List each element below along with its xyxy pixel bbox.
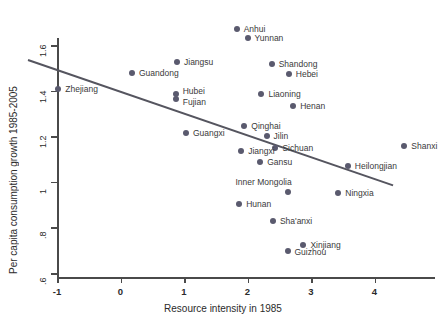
x-tick-mark — [248, 277, 250, 283]
data-point[interactable] — [55, 86, 61, 92]
y-tick-mark — [51, 182, 57, 184]
x-tick-label: 2 — [228, 286, 268, 297]
data-point-label: Ningxia — [345, 189, 373, 198]
y-tick-label: 1.2 — [38, 124, 48, 148]
x-tick-mark — [375, 277, 377, 283]
data-point-label: Inner Mongolia — [236, 178, 292, 187]
data-point-label: Heilongjian — [355, 162, 397, 171]
y-axis-title: Per capita consumption growth 1985-2005 — [8, 44, 19, 274]
data-point-label: Jiangxi — [248, 147, 274, 156]
y-tick-mark — [51, 136, 57, 138]
y-tick-label: .6 — [38, 261, 48, 285]
x-tick-mark — [121, 277, 123, 283]
data-point[interactable] — [234, 26, 240, 32]
x-tick-label: 4 — [355, 286, 395, 297]
data-point[interactable] — [257, 159, 263, 165]
data-point-label: Anhui — [244, 25, 266, 34]
x-axis-line — [57, 277, 435, 279]
x-tick-mark — [57, 277, 59, 283]
x-tick-label: 1 — [164, 286, 204, 297]
data-point[interactable] — [285, 248, 291, 254]
data-point[interactable] — [183, 130, 189, 136]
data-point[interactable] — [258, 91, 264, 97]
data-point[interactable] — [401, 143, 407, 149]
data-point-label: Hubei — [183, 87, 205, 96]
y-tick-label: 1 — [38, 170, 48, 194]
data-point-label: Qinghai — [251, 122, 280, 131]
data-point-label: Gansu — [267, 158, 292, 167]
data-point[interactable] — [241, 123, 247, 129]
data-point[interactable] — [238, 148, 244, 154]
y-tick-mark — [51, 227, 57, 229]
data-point[interactable] — [264, 133, 270, 139]
data-point[interactable] — [269, 61, 275, 67]
data-point-label: Sichuan — [282, 144, 313, 153]
x-tick-label: 0 — [101, 286, 141, 297]
data-point-label: Henan — [300, 102, 325, 111]
data-point-label: Shandong — [279, 60, 318, 69]
data-point[interactable] — [174, 59, 180, 65]
data-point-label: Fujian — [183, 98, 206, 107]
y-axis-line — [57, 38, 59, 278]
x-tick-mark — [184, 277, 186, 283]
scatter-chart: Per capita consumption growth 1985-2005 … — [0, 0, 446, 325]
y-tick-label: 1.6 — [38, 33, 48, 57]
data-point[interactable] — [270, 218, 276, 224]
data-point-label: Jiangsu — [184, 58, 213, 67]
data-point[interactable] — [286, 71, 292, 77]
data-point-label: Yunnan — [255, 34, 284, 43]
data-point-label: Shanxi — [411, 142, 437, 151]
x-tick-label: 3 — [291, 286, 331, 297]
data-point[interactable] — [173, 96, 179, 102]
y-tick-mark — [51, 273, 57, 275]
x-tick-label: -1 — [37, 286, 77, 297]
data-point[interactable] — [236, 201, 242, 207]
data-point[interactable] — [245, 35, 251, 41]
data-point[interactable] — [129, 70, 135, 76]
data-point-label: Liaoning — [268, 90, 300, 99]
x-tick-mark — [311, 277, 313, 283]
x-axis-title: Resource intensity in 1985 — [0, 303, 446, 314]
data-point-label: Sha'anxi — [280, 217, 312, 226]
data-point[interactable] — [290, 103, 296, 109]
data-point-label: Guandong — [139, 69, 179, 78]
trend-line — [28, 59, 394, 186]
data-point-label: Hunan — [246, 200, 271, 209]
data-point-label: Jilin — [274, 132, 289, 141]
data-point[interactable] — [345, 163, 351, 169]
data-point[interactable] — [285, 189, 291, 195]
data-point-label: Guangxi — [193, 129, 225, 138]
y-tick-mark — [51, 45, 57, 47]
data-point-label: Hebei — [296, 70, 318, 79]
y-tick-label: .8 — [38, 215, 48, 239]
y-tick-label: 1.4 — [38, 79, 48, 103]
data-point[interactable] — [335, 190, 341, 196]
data-point-label: Zhejiang — [65, 85, 98, 94]
data-point-label: Guizhou — [295, 248, 327, 257]
